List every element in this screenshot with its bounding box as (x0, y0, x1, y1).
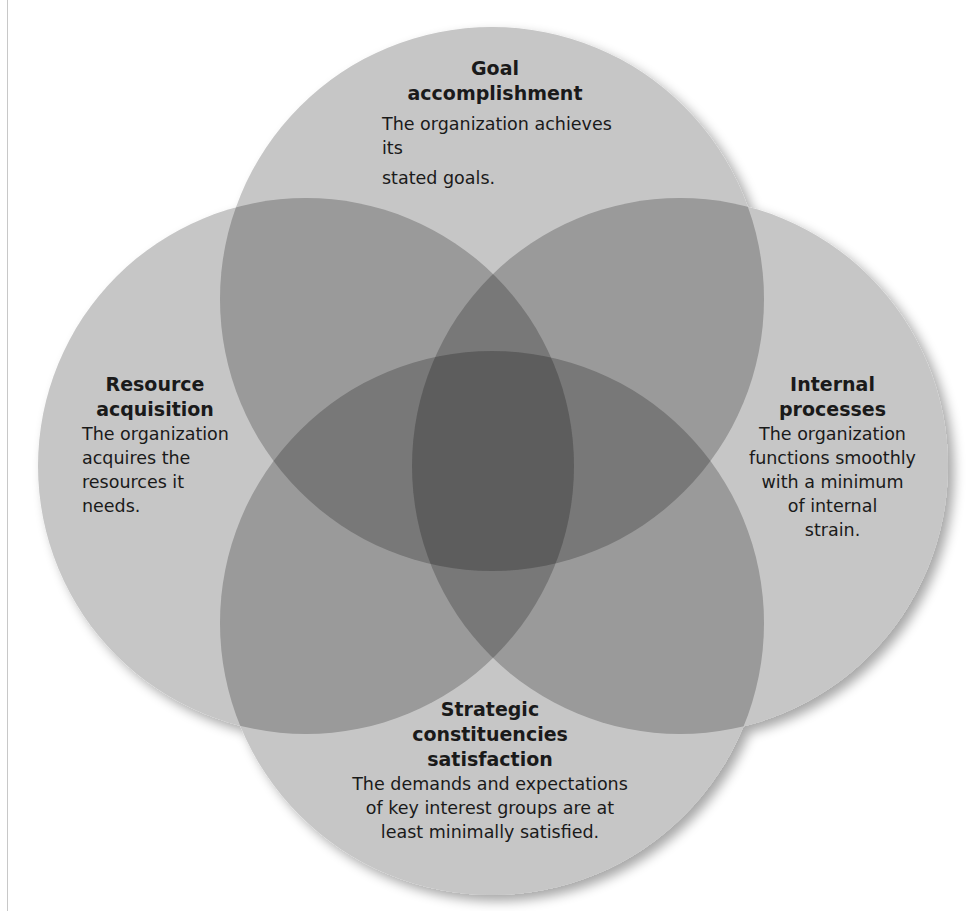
goal-title: Goal (370, 56, 620, 81)
internal-desc-2: functions smoothly (735, 446, 930, 470)
resource-title-2: acquisition (70, 397, 240, 422)
strategic-desc-1: The demands and expectations (310, 772, 670, 796)
resource-title: Resource (70, 372, 240, 397)
strategic-desc-3: least minimally satisfied. (310, 820, 670, 844)
goal-desc-1: The organization achieves its (370, 112, 620, 160)
resource-desc-2: acquires the (70, 446, 240, 470)
goal-desc-2: stated goals. (370, 166, 620, 190)
internal-desc-4: of internal (735, 494, 930, 518)
goal-title-2: accomplishment (370, 81, 620, 106)
resource-desc-4: needs. (70, 494, 240, 518)
strategic-title-3: satisfaction (310, 747, 670, 772)
strategic-title-2: constituencies (310, 722, 670, 747)
label-resource-acquisition: Resource acquisition The organization ac… (70, 372, 240, 518)
internal-desc-3: with a minimum (735, 470, 930, 494)
internal-desc-1: The organization (735, 422, 930, 446)
strategic-desc-2: of key interest groups are at (310, 796, 670, 820)
internal-title-2: processes (735, 397, 930, 422)
label-internal-processes: Internal processes The organization func… (735, 372, 930, 542)
strategic-title: Strategic (310, 697, 670, 722)
label-strategic-constituencies: Strategic constituencies satisfaction Th… (310, 697, 670, 844)
resource-desc-1: The organization (70, 422, 240, 446)
resource-desc-3: resources it (70, 470, 240, 494)
label-goal-accomplishment: Goal accomplishment The organization ach… (370, 56, 620, 190)
internal-title: Internal (735, 372, 930, 397)
internal-desc-5: strain. (735, 518, 930, 542)
